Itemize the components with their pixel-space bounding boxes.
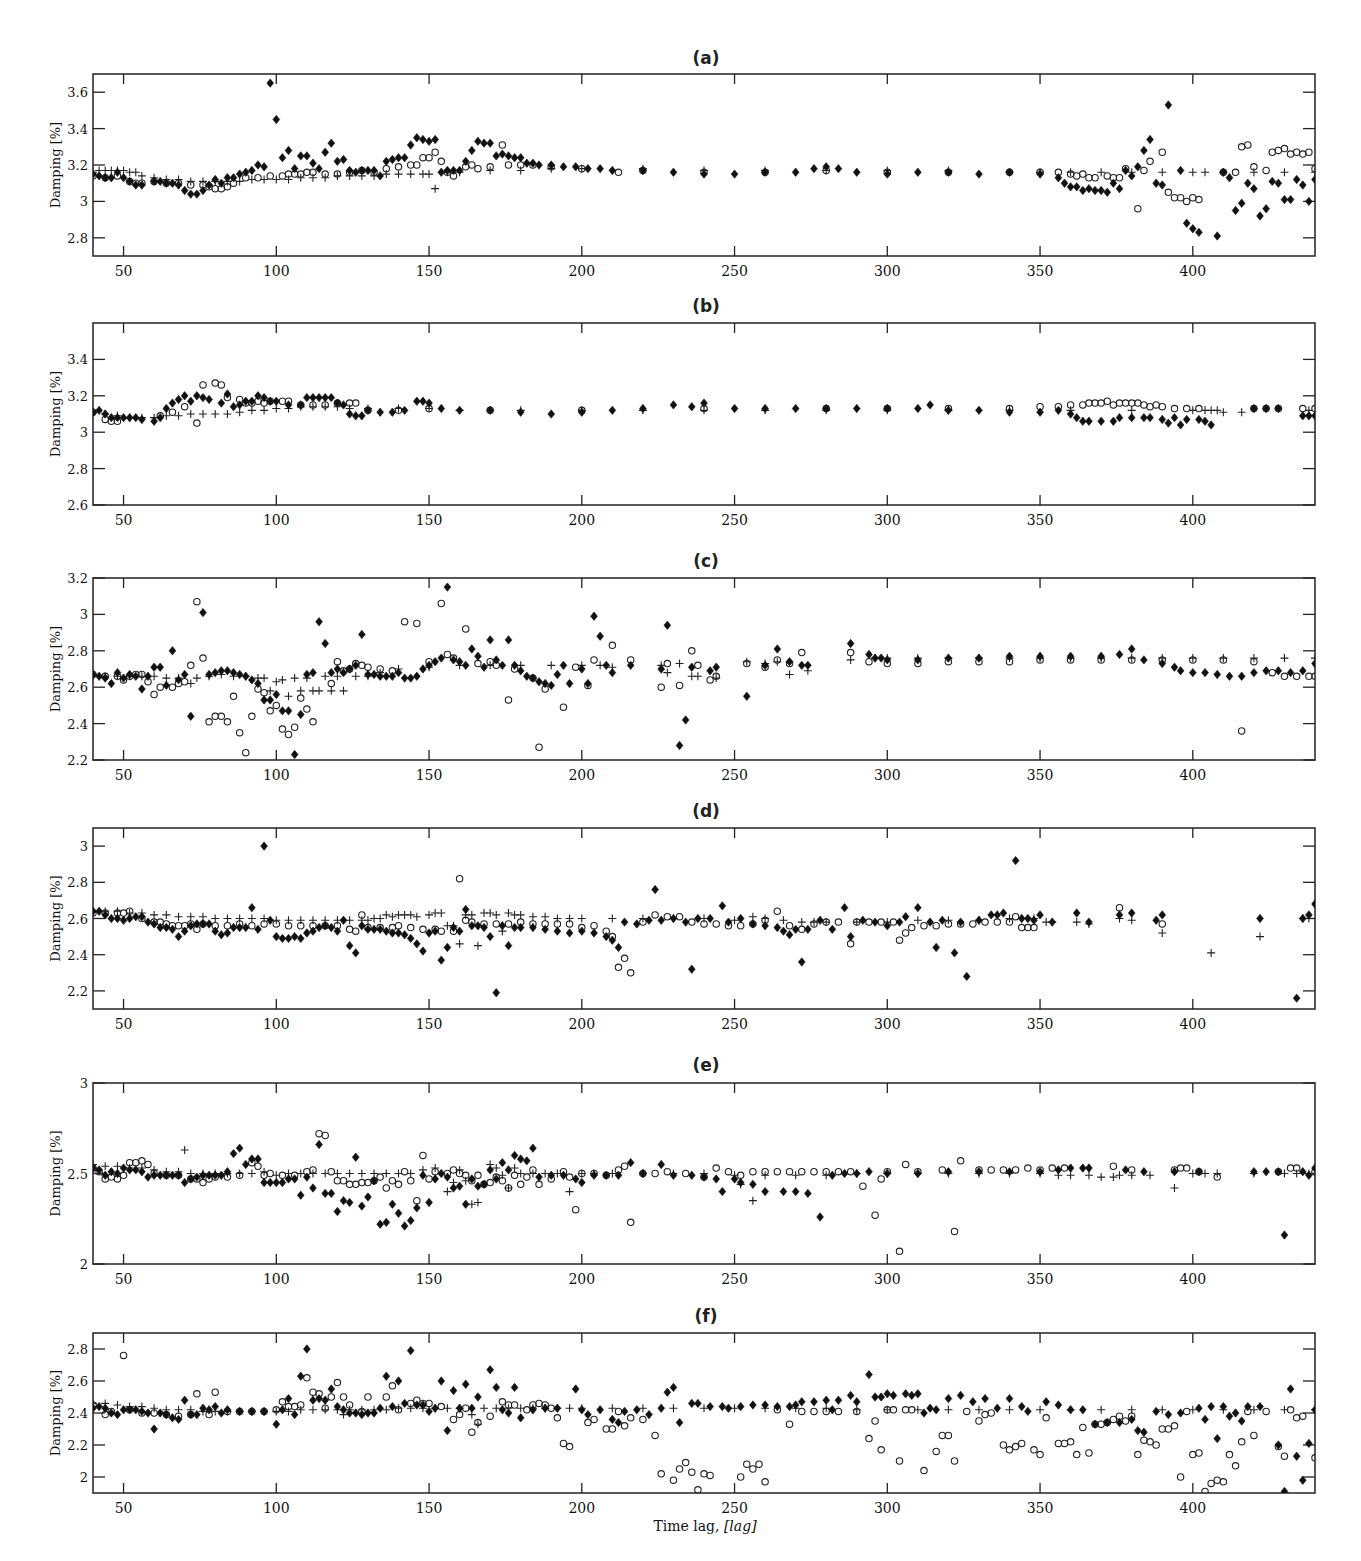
y-tick-label: 2 bbox=[80, 1470, 88, 1485]
y-tick-label: 3 bbox=[80, 607, 88, 622]
y-tick-label: 3.4 bbox=[67, 352, 88, 367]
panel-f: 5010015020025030035040022.22.42.62.8Damp… bbox=[48, 1333, 1319, 1516]
x-tick-label: 400 bbox=[1179, 263, 1206, 279]
panel-d: 501001502002503003504002.22.42.62.83Damp… bbox=[48, 828, 1318, 1032]
x-tick-label: 300 bbox=[874, 1016, 901, 1032]
x-tick-label: 100 bbox=[263, 767, 290, 783]
x-tick-label: 300 bbox=[874, 1500, 901, 1516]
y-tick-label: 2.8 bbox=[67, 1342, 88, 1357]
x-tick-label: 200 bbox=[568, 767, 595, 783]
y-tick-label: 2.6 bbox=[67, 498, 88, 513]
y-axis-label: Damping [%] bbox=[48, 875, 63, 961]
series-diamond bbox=[90, 79, 1319, 240]
x-tick-label: 50 bbox=[115, 512, 133, 528]
x-tick-label: 100 bbox=[263, 1016, 290, 1032]
x-tick-label: 150 bbox=[416, 1016, 443, 1032]
x-tick-label: 150 bbox=[416, 263, 443, 279]
plot-frame bbox=[93, 74, 1315, 256]
y-tick-label: 3.2 bbox=[67, 158, 88, 173]
series-circle bbox=[90, 1130, 1318, 1254]
panel-b: 501001502002503003504002.62.833.23.4Damp… bbox=[48, 323, 1318, 528]
y-tick-label: 2.6 bbox=[67, 1374, 88, 1389]
y-tick-label: 2.8 bbox=[67, 875, 88, 890]
x-tick-label: 200 bbox=[568, 1271, 595, 1287]
x-tick-label: 100 bbox=[263, 263, 290, 279]
x-axis-label: Time lag, [lag] bbox=[0, 1518, 1361, 1534]
y-tick-label: 2.2 bbox=[67, 984, 88, 999]
series-circle bbox=[90, 875, 1166, 976]
x-tick-label: 50 bbox=[115, 1271, 133, 1287]
x-tick-label: 200 bbox=[568, 1500, 595, 1516]
y-tick-label: 2.2 bbox=[67, 1438, 88, 1453]
x-tick-label: 400 bbox=[1179, 767, 1206, 783]
series-diamond bbox=[90, 583, 1319, 759]
y-tick-label: 2.2 bbox=[67, 753, 88, 768]
y-tick-label: 2.4 bbox=[67, 717, 88, 732]
x-axis-label-text: Time lag, bbox=[653, 1518, 724, 1534]
y-axis-label: Damping [%] bbox=[48, 371, 63, 457]
panel-a: 501001502002503003504002.833.23.43.6Damp… bbox=[48, 74, 1319, 279]
x-tick-label: 150 bbox=[416, 767, 443, 783]
x-tick-label: 50 bbox=[115, 1500, 133, 1516]
y-tick-label: 2.8 bbox=[67, 462, 88, 477]
y-tick-label: 2.6 bbox=[67, 680, 88, 695]
y-tick-label: 2 bbox=[80, 1257, 88, 1272]
x-tick-label: 350 bbox=[1027, 767, 1054, 783]
x-tick-label: 250 bbox=[721, 1500, 748, 1516]
y-tick-label: 3 bbox=[80, 425, 88, 440]
x-tick-label: 50 bbox=[115, 1016, 133, 1032]
x-tick-label: 350 bbox=[1027, 263, 1054, 279]
y-tick-label: 3.2 bbox=[67, 389, 88, 404]
y-tick-label: 3.6 bbox=[67, 85, 88, 100]
data-points bbox=[89, 380, 1318, 429]
x-tick-label: 400 bbox=[1179, 512, 1206, 528]
data-points bbox=[89, 79, 1319, 240]
y-tick-label: 2.8 bbox=[67, 644, 88, 659]
x-tick-label: 250 bbox=[721, 512, 748, 528]
x-tick-label: 350 bbox=[1027, 512, 1054, 528]
x-tick-label: 250 bbox=[721, 1016, 748, 1032]
panel-c: 501001502002503003504002.22.42.62.833.2D… bbox=[48, 571, 1319, 783]
y-tick-label: 2.8 bbox=[67, 231, 88, 246]
plot-frame bbox=[93, 578, 1315, 760]
x-tick-label: 250 bbox=[721, 1271, 748, 1287]
x-tick-label: 200 bbox=[568, 1016, 595, 1032]
panel-e: 5010015020025030035040022.53Damping [%] bbox=[48, 1076, 1318, 1287]
x-tick-label: 150 bbox=[416, 1271, 443, 1287]
x-tick-label: 50 bbox=[115, 263, 133, 279]
series-diamond bbox=[90, 1345, 1319, 1496]
y-tick-label: 3 bbox=[80, 1076, 88, 1091]
y-tick-label: 2.6 bbox=[67, 912, 88, 927]
x-tick-label: 200 bbox=[568, 263, 595, 279]
x-tick-label: 300 bbox=[874, 263, 901, 279]
x-tick-label: 100 bbox=[263, 1271, 290, 1287]
series-circle bbox=[90, 598, 1318, 755]
y-tick-label: 3 bbox=[80, 839, 88, 854]
x-tick-label: 100 bbox=[263, 1500, 290, 1516]
y-axis-label: Damping [%] bbox=[48, 626, 63, 712]
x-tick-label: 250 bbox=[721, 263, 748, 279]
x-tick-label: 150 bbox=[416, 512, 443, 528]
x-tick-label: 400 bbox=[1179, 1500, 1206, 1516]
x-tick-label: 300 bbox=[874, 512, 901, 528]
x-tick-label: 300 bbox=[874, 1271, 901, 1287]
x-tick-label: 100 bbox=[263, 512, 290, 528]
y-tick-label: 2.4 bbox=[67, 1406, 88, 1421]
y-tick-label: 3.2 bbox=[67, 571, 88, 586]
x-tick-label: 250 bbox=[721, 767, 748, 783]
series-diamond bbox=[90, 1140, 1319, 1239]
x-axis-label-unit: [lag] bbox=[724, 1518, 757, 1534]
x-tick-label: 300 bbox=[874, 767, 901, 783]
x-tick-label: 150 bbox=[416, 1500, 443, 1516]
data-points bbox=[89, 1345, 1319, 1496]
y-axis-label: Damping [%] bbox=[48, 122, 63, 208]
x-tick-label: 50 bbox=[115, 767, 133, 783]
data-points bbox=[89, 583, 1319, 759]
data-points bbox=[89, 842, 1318, 1002]
x-tick-label: 400 bbox=[1179, 1016, 1206, 1032]
y-axis-label: Damping [%] bbox=[48, 1370, 63, 1456]
x-tick-label: 350 bbox=[1027, 1016, 1054, 1032]
y-tick-label: 3 bbox=[80, 194, 88, 209]
y-tick-label: 3.4 bbox=[67, 122, 88, 137]
x-tick-label: 350 bbox=[1027, 1500, 1054, 1516]
